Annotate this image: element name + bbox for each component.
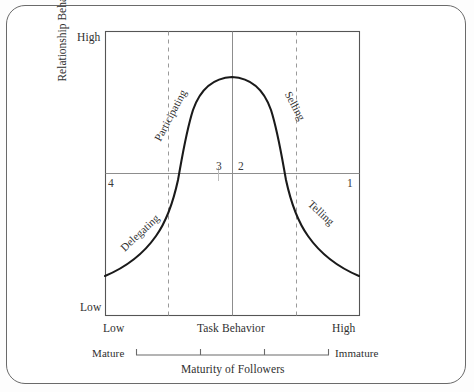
quadrant-number-1: 1 — [347, 177, 353, 189]
y-axis-low-label: Low — [80, 301, 101, 313]
x-axis-high-label: High — [332, 322, 355, 334]
quadrant-number-2: 2 — [238, 160, 244, 172]
maturity-scale-bar — [136, 349, 329, 355]
quadrant-number-4: 4 — [108, 177, 114, 189]
maturity-mature-label: Mature — [92, 347, 124, 359]
x-axis-label: Task Behavior — [197, 322, 265, 334]
quadrant-number-3: 3 — [216, 160, 222, 172]
x-axis-low-label: Low — [103, 322, 124, 334]
y-axis-label: Relationship Behavior — [56, 0, 68, 100]
maturity-immature-label: Immature — [335, 347, 379, 359]
situational-leadership-figure: Relationship Behavior High Low Low Task … — [0, 0, 474, 392]
maturity-caption: Maturity of Followers — [181, 363, 285, 375]
y-axis-high-label: High — [77, 31, 100, 43]
